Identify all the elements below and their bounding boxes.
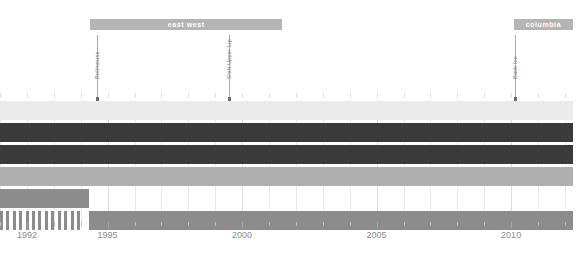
- axis-tick: [27, 222, 28, 228]
- top-tick: [430, 93, 431, 98]
- axis-tick: [108, 222, 109, 228]
- event-label: Bellmouse: [94, 51, 100, 79]
- top-tick: [215, 93, 216, 98]
- axis-tick: [350, 222, 351, 226]
- top-tick: [54, 93, 55, 98]
- timeline-row: [0, 123, 573, 142]
- chart-canvas: east westcolumbia BellmouseShift Upper L…: [0, 0, 579, 256]
- top-tick: [350, 93, 351, 98]
- axis-tick: [0, 222, 1, 226]
- timeline-bar: [0, 167, 573, 186]
- axis-tick: [269, 222, 270, 226]
- axis-tick: [135, 222, 136, 226]
- top-tick: [484, 93, 485, 98]
- axis-tick: [242, 222, 243, 228]
- axis-tick-label: 2000: [232, 230, 252, 240]
- timeline-row: [0, 101, 573, 120]
- top-tick: [511, 93, 512, 98]
- axis-tick-label: 2010: [501, 230, 521, 240]
- top-tick: [161, 93, 162, 98]
- top-tick: [108, 93, 109, 98]
- timeline-row: [0, 189, 573, 208]
- timeline-bar: [0, 123, 573, 142]
- group-band: east west: [90, 19, 282, 30]
- top-tick: [81, 93, 82, 98]
- axis-tick: [457, 222, 458, 226]
- axis-tick: [188, 222, 189, 226]
- axis-tick-label: 2005: [367, 230, 387, 240]
- top-tick: [404, 93, 405, 98]
- top-tick: [323, 93, 324, 98]
- top-tick: [565, 93, 566, 98]
- event-label: Back Ice: [512, 56, 518, 79]
- top-tick: [135, 93, 136, 98]
- top-tick: [242, 93, 243, 98]
- group-band-label: columbia: [526, 21, 562, 28]
- axis-tick: [296, 222, 297, 226]
- top-tick: [538, 93, 539, 98]
- top-tick: [0, 93, 1, 98]
- top-tick: [27, 93, 28, 98]
- x-axis: 19921995200020052010: [0, 222, 579, 252]
- axis-tick: [484, 222, 485, 226]
- axis-tick: [430, 222, 431, 226]
- top-tick: [188, 93, 189, 98]
- axis-tick-label: 1992: [17, 230, 37, 240]
- top-tick: [457, 93, 458, 98]
- top-tick: [269, 93, 270, 98]
- timeline-row: [0, 145, 573, 164]
- axis-tick: [54, 222, 55, 226]
- group-band-label: east west: [168, 21, 205, 28]
- axis-tick: [538, 222, 539, 226]
- top-tick: [377, 93, 378, 98]
- axis-tick: [511, 222, 512, 228]
- timeline-row: [0, 167, 573, 186]
- top-tick: [296, 93, 297, 98]
- axis-tick: [161, 222, 162, 226]
- axis-tick: [323, 222, 324, 226]
- timeline-bar: [0, 101, 573, 120]
- axis-tick: [565, 222, 566, 226]
- axis-tick: [377, 222, 378, 228]
- timeline-bar: [0, 189, 89, 208]
- axis-tick: [404, 222, 405, 226]
- axis-tick: [81, 222, 82, 226]
- timeline-plot: [0, 101, 573, 230]
- event-label: Shift Upper Lip: [226, 39, 232, 79]
- group-band: columbia: [514, 19, 573, 30]
- axis-tick-label: 1995: [98, 230, 118, 240]
- timeline-bar: [0, 145, 573, 164]
- axis-tick: [215, 222, 216, 226]
